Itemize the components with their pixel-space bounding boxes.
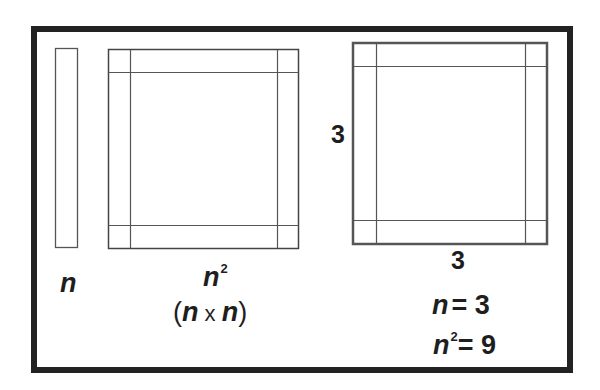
exponent: 2 <box>221 261 228 276</box>
label-n: n <box>203 262 220 292</box>
equation-rhs: = 9 <box>458 330 496 360</box>
strip-n <box>56 49 78 248</box>
label-n: n <box>60 268 77 298</box>
side-value: 3 <box>451 246 465 274</box>
equation-rhs: = 3 <box>452 290 490 320</box>
diagram-shapes <box>0 0 600 390</box>
equation-n-squared-equals-9: n2= 9 <box>433 330 496 361</box>
paren-close: ) <box>238 297 247 327</box>
square-3-by-3 <box>353 43 547 244</box>
equation-n-equals-3: n= 3 <box>432 290 490 321</box>
label-n: n <box>432 290 449 320</box>
label-n: n <box>182 297 199 327</box>
square-n-sublabel: (n x n) <box>173 297 247 328</box>
square-n-by-n <box>109 50 299 249</box>
side-label-left: 3 <box>331 120 345 149</box>
times-sign: x <box>199 301 222 326</box>
label-n: n <box>433 330 450 360</box>
side-value: 3 <box>331 120 345 148</box>
square-n-label: n2 <box>203 262 228 293</box>
paren-open: ( <box>173 297 182 327</box>
exponent: 2 <box>451 329 458 344</box>
strip-label: n <box>60 268 77 299</box>
label-n: n <box>222 297 239 327</box>
side-label-bottom: 3 <box>451 246 465 275</box>
